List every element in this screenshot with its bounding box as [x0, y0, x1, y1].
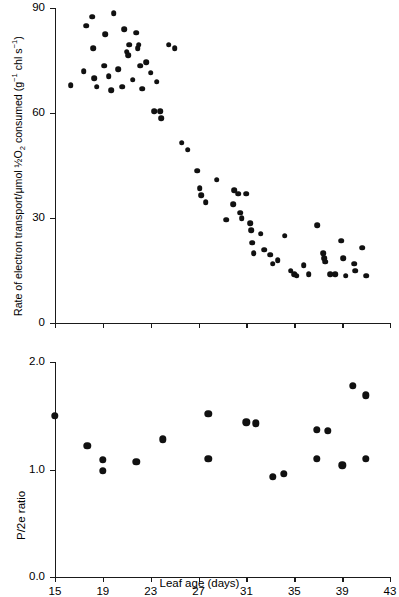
data-point	[154, 79, 160, 85]
data-point	[106, 73, 112, 79]
y-axis-tick-label: 90	[32, 2, 45, 14]
data-point	[130, 77, 136, 83]
data-point	[268, 252, 274, 258]
data-point	[341, 255, 347, 261]
lower-plot-area: 0.01.02.01519232731353943	[55, 362, 390, 577]
data-point	[89, 14, 95, 20]
data-point	[84, 442, 91, 449]
data-point	[179, 140, 185, 146]
data-point	[214, 177, 220, 183]
y-axis-tick	[50, 362, 55, 363]
x-axis-tick	[294, 323, 295, 328]
data-point	[204, 455, 211, 462]
data-point	[90, 45, 96, 51]
data-point	[152, 108, 158, 114]
data-point	[269, 473, 276, 480]
data-point	[332, 271, 338, 277]
data-point	[166, 42, 172, 48]
y-axis-tick-label: 30	[32, 212, 45, 224]
data-point	[125, 52, 131, 58]
data-point	[301, 262, 307, 268]
data-point	[126, 42, 132, 48]
data-point	[235, 191, 241, 197]
upper-y-axis-label: Rate of electron transport/μmol ½O2 cons…	[13, 36, 24, 316]
data-point	[185, 147, 191, 153]
upper-x-axis-line	[55, 323, 390, 324]
x-axis-tick	[151, 323, 152, 328]
data-point	[223, 217, 229, 223]
data-point	[244, 191, 250, 197]
x-axis-tick	[390, 323, 391, 328]
data-point	[338, 461, 345, 468]
data-point	[349, 382, 356, 389]
data-point	[134, 30, 140, 36]
data-point	[99, 456, 106, 463]
data-point	[195, 168, 201, 174]
data-point	[122, 26, 128, 32]
data-point	[351, 261, 357, 267]
data-point	[111, 10, 117, 16]
data-point	[230, 201, 236, 207]
data-point	[108, 87, 114, 93]
y-axis-tick-label: 1.0	[29, 464, 45, 476]
y-axis-tick	[50, 8, 55, 9]
data-point	[102, 31, 108, 37]
y-axis-tick	[50, 218, 55, 219]
x-axis-tick	[55, 323, 56, 328]
x-axis-tick	[342, 323, 343, 328]
data-point	[258, 231, 264, 237]
data-point	[275, 257, 281, 263]
data-point	[362, 392, 369, 399]
data-point	[198, 192, 204, 198]
data-point	[81, 68, 87, 74]
data-point	[280, 470, 287, 477]
data-point	[148, 70, 154, 76]
y-axis-tick	[50, 470, 55, 471]
x-axis-label: Leaf age (days)	[0, 578, 399, 590]
data-point	[68, 82, 74, 88]
y-axis-tick-label: 2.0	[29, 356, 45, 368]
data-point	[338, 238, 344, 244]
data-point	[247, 220, 253, 226]
data-point	[313, 426, 320, 433]
y-axis-tick-label: 60	[32, 107, 45, 119]
data-point	[251, 250, 257, 256]
lower-y-axis-label: P/2e ratio	[16, 491, 27, 540]
data-point	[159, 436, 166, 443]
data-point	[140, 86, 146, 92]
data-point	[362, 455, 369, 462]
y-axis-tick	[50, 113, 55, 114]
data-point	[94, 84, 100, 90]
lower-y-axis-line	[55, 362, 56, 577]
figure-container: Rate of electron transport/μmol ½O2 cons…	[0, 0, 399, 597]
upper-y-axis-line	[55, 8, 56, 323]
data-point	[204, 410, 211, 417]
data-point	[119, 84, 125, 90]
data-point	[250, 240, 256, 246]
lower-scatter-panel: P/2e ratio 0.01.02.01519232731353943	[0, 340, 399, 597]
data-point	[157, 108, 163, 114]
data-point	[353, 268, 359, 274]
data-point	[92, 75, 98, 81]
data-point	[243, 418, 250, 425]
data-point	[136, 42, 142, 48]
data-point	[197, 185, 203, 191]
data-point	[83, 23, 89, 29]
data-point	[203, 199, 209, 205]
data-point	[143, 59, 149, 65]
data-point	[306, 271, 312, 277]
data-point	[137, 63, 143, 69]
data-point	[343, 273, 349, 279]
y-axis-tick-label: 0	[39, 317, 45, 329]
data-point	[172, 45, 178, 51]
data-point	[314, 222, 320, 228]
data-point	[363, 273, 369, 279]
data-point	[248, 227, 254, 233]
data-point	[239, 215, 245, 221]
data-point	[323, 259, 329, 265]
x-axis-tick	[199, 323, 200, 328]
data-point	[282, 233, 288, 239]
data-point	[51, 412, 58, 419]
data-point	[324, 427, 331, 434]
data-point	[116, 66, 122, 72]
